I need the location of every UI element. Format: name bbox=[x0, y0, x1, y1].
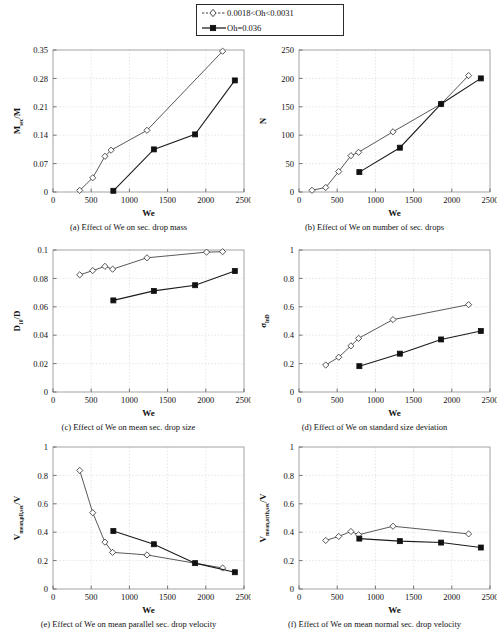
y-tick-label: 200 bbox=[281, 74, 294, 84]
data-point-open-diamond bbox=[336, 533, 342, 539]
chart-b: 05001000150020002500050100150200250WeN bbox=[252, 40, 497, 240]
y-axis-title: σlnD bbox=[258, 314, 270, 328]
x-tick-label: 2500 bbox=[482, 592, 498, 602]
data-point-filled-square bbox=[439, 337, 444, 342]
data-point-filled-square bbox=[193, 283, 198, 288]
x-tick-label: 1000 bbox=[367, 592, 384, 602]
panel-d-standard-size-deviation: 0500100015002000250000.20.40.60.81WeσlnD… bbox=[252, 240, 497, 440]
x-tick-label: 0 bbox=[297, 195, 301, 205]
svg-text:σlnD: σlnD bbox=[258, 314, 270, 328]
data-point-filled-square bbox=[357, 364, 362, 369]
x-tick-label: 2000 bbox=[443, 195, 460, 205]
panel-caption-e: (e) Effect of We on mean parallel sec. d… bbox=[6, 619, 251, 629]
x-axis-title: We bbox=[388, 208, 401, 218]
data-point-filled-square bbox=[439, 540, 444, 545]
data-point-filled-square bbox=[151, 542, 156, 547]
panel-a-sec-drop-mass: 0500100015002000250000.070.140.210.280.3… bbox=[6, 40, 251, 240]
chart-f: 0500100015002000250000.20.40.60.81WeVmea… bbox=[252, 437, 497, 633]
axis-frame bbox=[53, 50, 244, 192]
y-tick-label: 0.04 bbox=[33, 330, 49, 340]
x-tick-label: 1000 bbox=[121, 592, 138, 602]
series-line-filled-square bbox=[113, 531, 234, 572]
y-tick-label: 250 bbox=[281, 45, 294, 55]
panel-e-mean-parallel-velocity: 0500100015002000250000.20.40.60.81WeVmea… bbox=[6, 437, 251, 633]
open-diamond-icon bbox=[201, 7, 227, 19]
svg-text:Msec/M: Msec/M bbox=[12, 107, 24, 134]
y-tick-label: 50 bbox=[286, 159, 295, 169]
series-line-open-diamond bbox=[80, 252, 223, 275]
data-point-open-diamond bbox=[390, 316, 396, 322]
series-line-open-diamond bbox=[312, 76, 469, 191]
x-tick-label: 1500 bbox=[159, 395, 176, 405]
y-tick-label: 0 bbox=[44, 387, 48, 397]
y-tick-label: 0 bbox=[44, 584, 48, 594]
x-tick-label: 2000 bbox=[443, 395, 460, 405]
chart-e: 0500100015002000250000.20.40.60.81WeVmea… bbox=[6, 437, 251, 633]
data-point-open-diamond bbox=[90, 267, 96, 273]
figure-legend: 0.0018<Oh<0.0031 Oh=0.036 bbox=[196, 4, 344, 36]
y-tick-label: 1 bbox=[290, 442, 294, 452]
x-tick-label: 500 bbox=[85, 195, 98, 205]
data-point-filled-square bbox=[357, 536, 362, 541]
y-tick-label: 0.21 bbox=[33, 102, 48, 112]
chart-d: 0500100015002000250000.20.40.60.81WeσlnD bbox=[252, 240, 497, 440]
data-point-filled-square bbox=[193, 132, 198, 137]
legend-label-filled: Oh=0.036 bbox=[227, 22, 261, 34]
panel-caption-c: (c) Effect of We on mean sec. drop size bbox=[6, 422, 251, 432]
data-point-filled-square bbox=[111, 529, 116, 534]
svg-text:N: N bbox=[258, 117, 268, 124]
data-point-open-diamond bbox=[77, 467, 83, 473]
x-axis-title: We bbox=[388, 408, 401, 418]
data-point-filled-square bbox=[478, 328, 483, 333]
x-tick-label: 1000 bbox=[121, 195, 138, 205]
data-point-filled-square bbox=[397, 351, 402, 356]
data-point-filled-square bbox=[478, 76, 483, 81]
x-tick-label: 0 bbox=[51, 395, 55, 405]
x-tick-label: 500 bbox=[331, 592, 344, 602]
x-tick-label: 2500 bbox=[236, 395, 252, 405]
y-tick-label: 0 bbox=[290, 387, 294, 397]
data-point-open-diamond bbox=[77, 272, 83, 278]
y-tick-label: 0.6 bbox=[37, 499, 48, 509]
data-point-filled-square bbox=[111, 188, 116, 193]
x-tick-label: 2500 bbox=[482, 395, 498, 405]
series-line-open-diamond bbox=[80, 51, 223, 190]
data-point-open-diamond bbox=[220, 249, 226, 255]
x-tick-label: 1500 bbox=[405, 395, 422, 405]
y-tick-label: 0.4 bbox=[283, 330, 294, 340]
x-tick-label: 1500 bbox=[405, 195, 422, 205]
data-point-open-diamond bbox=[355, 149, 361, 155]
y-tick-label: 0.35 bbox=[33, 45, 48, 55]
y-tick-label: 0.4 bbox=[283, 527, 294, 537]
y-tick-label: 1 bbox=[290, 245, 294, 255]
y-tick-label: 0.1 bbox=[37, 245, 48, 255]
axis-frame bbox=[299, 447, 490, 589]
x-tick-label: 500 bbox=[85, 395, 98, 405]
panel-caption-f: (f) Effect of We on mean normal sec. dro… bbox=[252, 619, 497, 629]
data-point-filled-square bbox=[478, 545, 483, 550]
svg-text:Vmean,pll,sec/V: Vmean,pll,sec/V bbox=[12, 495, 24, 540]
data-point-filled-square bbox=[232, 78, 237, 83]
x-tick-label: 1000 bbox=[121, 395, 138, 405]
y-tick-label: 0 bbox=[44, 187, 48, 197]
axis-frame bbox=[53, 250, 244, 392]
series-line-filled-square bbox=[359, 331, 480, 366]
series-line-filled-square bbox=[359, 78, 480, 172]
y-tick-label: 0.28 bbox=[33, 74, 48, 84]
y-tick-label: 0 bbox=[290, 584, 294, 594]
data-point-filled-square bbox=[397, 539, 402, 544]
panel-b-number-of-sec-drops: 05001000150020002500050100150200250WeN(b… bbox=[252, 40, 497, 240]
y-axis-title: D10/D bbox=[12, 310, 24, 332]
data-point-open-diamond bbox=[109, 266, 115, 272]
y-tick-label: 0 bbox=[290, 187, 294, 197]
y-tick-label: 0.8 bbox=[283, 274, 294, 284]
data-point-open-diamond bbox=[390, 523, 396, 529]
x-tick-label: 2000 bbox=[197, 195, 214, 205]
y-tick-label: 0.08 bbox=[33, 274, 48, 284]
legend-entry-open: 0.0018<Oh<0.0031 bbox=[197, 5, 343, 20]
y-axis-title: Msec/M bbox=[12, 107, 24, 134]
x-axis-title: We bbox=[142, 605, 155, 615]
series-line-filled-square bbox=[113, 271, 234, 300]
x-axis-title: We bbox=[142, 408, 155, 418]
x-tick-label: 500 bbox=[331, 195, 344, 205]
